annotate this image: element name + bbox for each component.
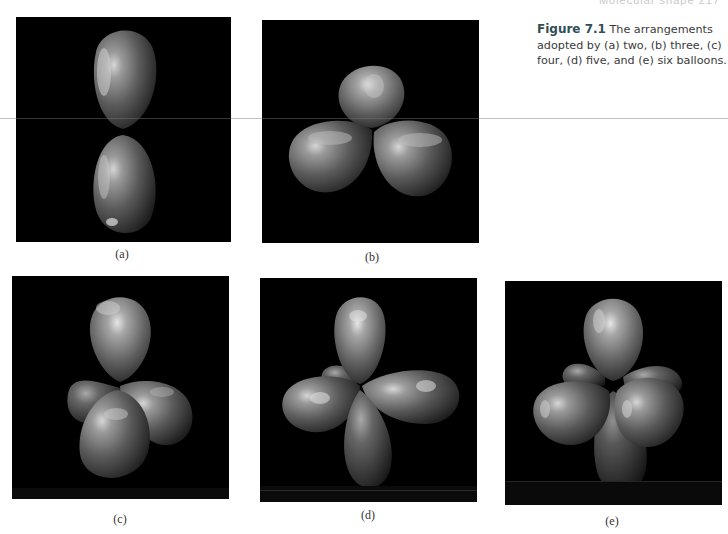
balloons-four-tetrahedral-image bbox=[12, 276, 229, 499]
figure-panel-c bbox=[12, 276, 229, 499]
figure-panel-b bbox=[262, 20, 479, 243]
balloons-two-linear-image bbox=[16, 17, 231, 242]
figure-number: Figure 7.1 bbox=[537, 22, 606, 36]
panel-label-d: (d) bbox=[348, 508, 388, 523]
panel-label-c: (c) bbox=[100, 512, 140, 527]
panel-label-e: (e) bbox=[592, 514, 632, 529]
balloons-three-trigonal-image bbox=[262, 20, 479, 243]
scan-artifact-line bbox=[0, 118, 728, 119]
balloons-five-trigonal-bipyramidal-image bbox=[260, 278, 477, 502]
balloons-six-octahedral-image bbox=[505, 281, 722, 505]
figure-caption: Figure 7.1 The arrangements adopted by (… bbox=[537, 22, 727, 69]
figure-panel-e bbox=[505, 281, 722, 505]
running-head: Molecular shape 217 bbox=[599, 0, 720, 6]
figure-panel-a bbox=[16, 17, 231, 242]
panel-label-a: (a) bbox=[102, 247, 142, 262]
panel-label-b: (b) bbox=[352, 250, 392, 265]
figure-panel-d bbox=[260, 278, 477, 502]
